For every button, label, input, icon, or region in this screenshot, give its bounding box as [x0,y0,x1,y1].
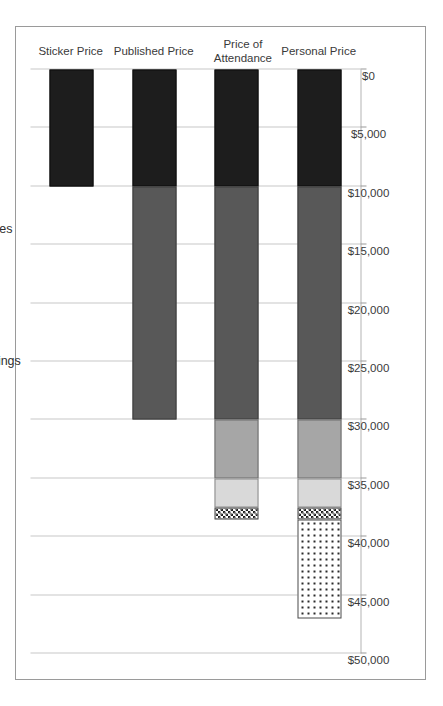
bar-segment [297,507,341,519]
bar-3 [297,27,341,681]
bar-segment [297,69,341,186]
bar-segment [132,186,176,420]
bar-segment [214,419,258,477]
bar-segment [297,186,341,420]
bar-segment [132,69,176,186]
bar-segment [297,478,341,507]
bar-segment [214,507,258,519]
bar-segment [214,186,258,420]
bar-segment [297,419,341,477]
axis-tick [360,302,366,303]
legend-label: Books & Supplies [0,221,12,236]
bar-segment [214,478,258,507]
bar-0 [49,27,93,681]
bar-segment [214,69,258,186]
bar-segment [297,519,341,618]
bar-1 [132,27,176,681]
axis-tick [360,594,366,595]
chart-page: $50,000$45,000$40,000$35,000$30,000$25,0… [0,0,443,706]
rotated-chart-canvas: $50,000$45,000$40,000$35,000$30,000$25,0… [16,27,427,681]
legend-label: Foregone Earnings [0,353,20,368]
plot-area: $50,000$45,000$40,000$35,000$30,000$25,0… [16,27,427,681]
bar-2 [214,27,258,681]
bar-segment [49,69,93,186]
chart-frame: $50,000$45,000$40,000$35,000$30,000$25,0… [15,26,426,680]
